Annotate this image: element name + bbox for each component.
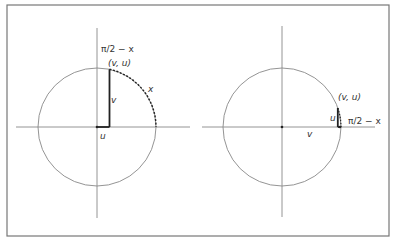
left-u-label: u [100,131,106,141]
unit-circle-figure: π/2 − x (v, u) x v u (v, u) u π/2 − x v [0,0,397,243]
right-foot-dot [339,126,342,129]
left-origin-dot [96,126,99,129]
right-u-label: u [330,113,336,123]
left-angle-label: π/2 − x [101,44,134,54]
right-point-label: (v, u) [338,92,361,102]
right-origin-dot [281,126,284,129]
right-v-label: v [307,129,313,139]
right-angle-label: π/2 − x [348,116,381,126]
left-point-label: (v, u) [108,58,131,68]
left-arc-label: x [147,84,154,94]
left-v-label: v [111,95,117,105]
